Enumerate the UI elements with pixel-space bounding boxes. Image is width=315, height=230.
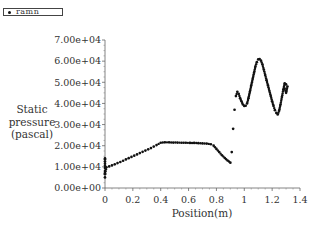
data-point (283, 87, 286, 90)
x-tick-label: 1.2 (265, 194, 280, 205)
data-point (233, 108, 236, 111)
chart: 0.00e+001.00e+042.00e+043.00e+044.00e+04… (0, 0, 315, 230)
y-axis-label-line: pressure (9, 116, 56, 128)
x-tick-label: 1 (241, 194, 247, 205)
data-point (127, 157, 130, 160)
data-point (255, 61, 258, 64)
data-point (108, 165, 111, 168)
y-axis-label: Staticpressure(pascal) (9, 103, 56, 140)
data-point (285, 92, 288, 95)
data-point (210, 143, 213, 146)
x-axis-ticks: 00.20.40.60.811.21.4 (102, 188, 308, 205)
data-point (104, 157, 107, 160)
y-axis-label-line: Static (16, 103, 47, 115)
y-axis-label-line: (pascal) (11, 128, 53, 140)
data-point (244, 104, 247, 107)
data-point (130, 156, 133, 159)
data-point (254, 65, 257, 68)
data-point (237, 93, 240, 96)
data-point (105, 166, 108, 169)
data-point (125, 158, 128, 161)
data-point (235, 95, 238, 98)
data-point (147, 148, 150, 151)
x-tick-label: 0.2 (125, 194, 140, 205)
data-point (138, 152, 141, 155)
y-tick-label: 1.00e+04 (54, 161, 101, 172)
axes (105, 40, 300, 188)
data-point (111, 164, 114, 167)
y-axis-ticks: 0.00e+001.00e+042.00e+043.00e+044.00e+04… (54, 34, 105, 193)
x-tick-label: 0 (102, 194, 108, 205)
y-tick-label: 6.00e+04 (54, 55, 101, 66)
y-tick-label: 3.00e+04 (54, 119, 101, 130)
data-point (141, 151, 144, 154)
y-tick-label: 7.00e+04 (54, 34, 101, 45)
x-tick-label: 0.6 (181, 194, 196, 205)
data-point (116, 162, 119, 165)
y-tick-label: 2.00e+04 (54, 140, 101, 151)
data-series (104, 58, 289, 179)
y-tick-label: 4.00e+04 (54, 98, 101, 109)
data-point (133, 154, 136, 157)
data-point (104, 176, 107, 179)
data-point (274, 109, 277, 112)
y-tick-label: 0.00e+00 (54, 182, 101, 193)
data-point (229, 161, 232, 164)
data-point (119, 161, 122, 164)
data-point (122, 159, 125, 162)
x-tick-label: 0.4 (153, 194, 168, 205)
x-axis-label: Position(m) (172, 207, 233, 219)
data-point (136, 153, 139, 156)
data-point (232, 127, 235, 130)
x-tick-label: 0.8 (209, 194, 224, 205)
data-point (152, 145, 155, 148)
data-point (144, 149, 147, 152)
data-point (150, 147, 153, 150)
data-point (113, 163, 116, 166)
x-tick-label: 1.4 (292, 194, 307, 205)
y-tick-label: 5.00e+04 (54, 77, 101, 88)
data-point (230, 151, 233, 154)
